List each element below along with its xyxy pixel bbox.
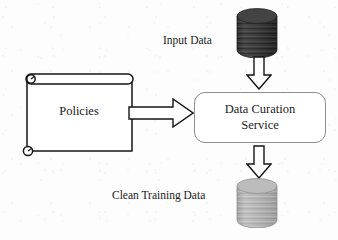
block-arrow-right-icon-policies-to-service [128,98,194,128]
service-label-line-1: Data Curation [225,102,295,117]
service-label-line-2: Service [241,118,278,133]
block-arrow-down-icon-input-to-service [246,56,272,90]
clean-training-data-label: Clean Training Data [112,189,205,202]
policies-label: Policies [20,104,138,119]
block-arrow-down-icon-service-to-clean [246,145,272,179]
data-curation-service-box[interactable]: Data Curation Service [194,92,326,143]
input-data-cylinder [236,8,278,58]
clean-training-data-cylinder [236,178,278,228]
input-data-label: Input Data [163,34,212,47]
diagram-canvas: Input Data [0,0,338,240]
